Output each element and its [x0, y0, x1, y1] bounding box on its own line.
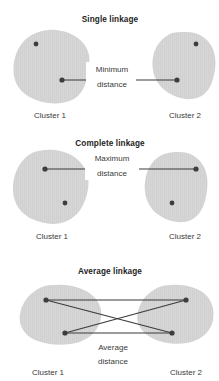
average-distance-label-line2: distance: [98, 357, 128, 366]
left-inner-point-complete: [63, 201, 68, 206]
minimum-distance-label-line1: Minimum: [96, 65, 129, 74]
diagram-canvas: Single linkage Minimum distance Cluster …: [0, 0, 219, 381]
right-outlier-point-single: [194, 42, 199, 47]
right-top-point-average: [183, 297, 188, 302]
right-inner-point-complete: [170, 201, 175, 206]
cluster-1-label-single: Cluster 1: [34, 111, 67, 120]
left-farthest-point-complete: [42, 166, 47, 171]
cluster-2-label-average: Cluster 2: [170, 368, 203, 377]
cluster-1-label-complete: Cluster 1: [36, 232, 69, 241]
cluster-1-blob-single: [13, 30, 89, 104]
left-outlier-point-single: [34, 42, 39, 47]
right-farthest-point-complete: [193, 166, 198, 171]
cluster-2-blob-complete: [145, 152, 208, 222]
right-bottom-point-average: [169, 330, 174, 335]
left-bottom-point-average: [62, 330, 67, 335]
cluster-2-blob-average: [137, 285, 213, 344]
cluster-1-blob-complete: [13, 150, 89, 224]
average-distance-label-line1: Average: [98, 343, 128, 352]
panel-complete-linkage: Complete linkage Maximum distance Cluste…: [13, 139, 208, 241]
minimum-distance-label-line2: distance: [97, 80, 127, 89]
left-top-point-average: [43, 297, 48, 302]
maximum-distance-label-line1: Maximum: [95, 154, 130, 163]
linkage-methods-figure: Single linkage Minimum distance Cluster …: [0, 0, 219, 381]
cluster-1-blob-average: [20, 285, 102, 345]
panel-average-linkage: Average linkage Average distance Cluster…: [20, 267, 214, 377]
panel-single-linkage: Single linkage Minimum distance Cluster …: [13, 15, 215, 120]
cluster-1-label-average: Cluster 1: [32, 368, 65, 377]
right-nearest-point-single: [174, 77, 179, 82]
left-nearest-point-single: [59, 77, 64, 82]
cluster-2-label-complete: Cluster 2: [169, 232, 202, 241]
panel-title-average-linkage: Average linkage: [78, 267, 142, 276]
cluster-2-blob-single: [152, 32, 215, 99]
maximum-distance-label-line2: distance: [97, 169, 127, 178]
cluster-2-label-single: Cluster 2: [169, 111, 202, 120]
panel-title-single-linkage: Single linkage: [82, 15, 139, 24]
panel-title-complete-linkage: Complete linkage: [75, 139, 145, 148]
